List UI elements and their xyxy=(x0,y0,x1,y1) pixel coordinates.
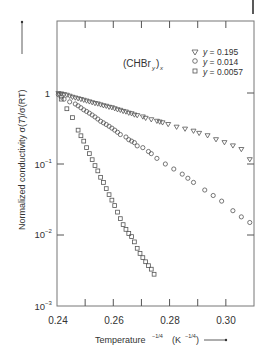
series-2 xyxy=(59,97,156,276)
data-point xyxy=(99,175,103,179)
data-point xyxy=(149,118,154,122)
data-point xyxy=(180,172,184,176)
data-point xyxy=(90,158,94,162)
data-point xyxy=(231,209,235,213)
data-point xyxy=(76,128,80,132)
data-point xyxy=(118,217,122,221)
data-point xyxy=(214,138,219,142)
data-point xyxy=(113,204,117,208)
annotation-sub-x: x xyxy=(159,65,164,71)
data-point xyxy=(93,164,97,168)
data-point xyxy=(166,123,171,127)
data-point xyxy=(141,146,145,150)
data-point xyxy=(121,223,125,227)
data-point xyxy=(144,260,148,264)
data-point xyxy=(146,149,150,153)
data-point xyxy=(247,158,252,162)
legend-marker-square-icon xyxy=(193,69,197,73)
data-point xyxy=(68,100,72,104)
x-label-sup: −1/4 xyxy=(152,333,163,339)
data-point xyxy=(191,129,196,133)
data-point xyxy=(96,169,100,173)
data-point xyxy=(183,127,188,131)
data-point xyxy=(82,139,86,143)
series-1 xyxy=(56,92,252,224)
y-tick-1e-3: 10 xyxy=(34,301,45,312)
data-point xyxy=(132,240,136,244)
legend: y = 0.195 y = 0.014 y = 0.0057 xyxy=(192,47,243,77)
y-arrow-head xyxy=(21,21,23,23)
data-point xyxy=(155,156,159,160)
y-tick-1e-3-exp: −3 xyxy=(45,300,53,306)
x-label-main: Temperature xyxy=(95,335,146,345)
data-point xyxy=(141,256,145,260)
legend-label-1: y = 0.014 xyxy=(202,57,238,67)
data-point xyxy=(239,215,243,219)
data-point xyxy=(239,148,244,152)
data-point xyxy=(107,193,111,197)
data-point xyxy=(87,152,91,156)
conductivity-chart: 1 10 −1 10 −2 10 −3 0.24 0.26 0.28 0.30 … xyxy=(0,0,264,361)
x-tick-labels: 0.24 0.26 0.28 0.30 xyxy=(48,315,236,326)
data-point xyxy=(62,97,66,101)
x-axis-label: Temperature −1/4 (K −1/4 ) xyxy=(95,333,227,345)
data-point xyxy=(149,152,153,156)
x-arrow-head xyxy=(225,339,227,341)
data-point xyxy=(115,130,119,134)
annotation-close: ) xyxy=(156,58,159,69)
data-point xyxy=(186,176,190,180)
data-point xyxy=(197,131,202,135)
x-tick-0.30: 0.30 xyxy=(216,315,236,326)
x-label-unit-close: ) xyxy=(196,335,199,345)
data-point xyxy=(71,116,75,120)
compound-annotation: (CHBr y ) x xyxy=(123,58,164,71)
data-point xyxy=(163,162,167,166)
data-point xyxy=(143,116,148,120)
data-point xyxy=(174,125,179,129)
data-point xyxy=(248,220,252,224)
y-label-suffix: )/σ(RT) xyxy=(17,90,27,119)
legend-label-0: y = 0.195 xyxy=(202,47,238,57)
data-point xyxy=(85,146,89,150)
data-point xyxy=(138,252,142,256)
data-point xyxy=(172,167,176,171)
legend-marker-triangle-icon xyxy=(192,50,198,55)
annotation-main: (CHBr xyxy=(123,58,151,69)
data-point xyxy=(230,144,235,148)
y-tick-1e-1-exp: −1 xyxy=(45,158,53,164)
data-point xyxy=(135,144,139,148)
y-tick-labels: 1 10 −1 10 −2 10 −3 xyxy=(34,88,52,312)
y-axis-label: Normalized conductivity σ(T)/σ(RT) xyxy=(17,21,27,230)
data-point xyxy=(222,141,227,145)
series-0 xyxy=(56,92,252,162)
y-tick-1: 1 xyxy=(45,88,50,99)
x-label-unit-sup: −1/4 xyxy=(185,333,196,339)
y-tick-1e-1: 10 xyxy=(34,159,45,170)
data-point xyxy=(220,199,224,203)
data-point xyxy=(102,181,106,185)
y-tick-1e-2-exp: −2 xyxy=(45,228,53,234)
data-point xyxy=(203,188,207,192)
data-point xyxy=(135,246,139,250)
data-point xyxy=(205,134,210,138)
legend-marker-circle-icon xyxy=(193,59,198,64)
y-label-prefix: Normalized conductivity σ( xyxy=(17,124,27,230)
data-point xyxy=(152,272,156,276)
legend-label-2: y = 0.0057 xyxy=(202,67,243,77)
x-tick-0.24: 0.24 xyxy=(48,315,68,326)
data-point xyxy=(191,180,195,184)
x-tick-0.26: 0.26 xyxy=(104,315,124,326)
data-point xyxy=(110,198,114,202)
data-point xyxy=(118,132,122,136)
data-point xyxy=(104,187,108,191)
x-tick-0.28: 0.28 xyxy=(160,315,180,326)
data-point xyxy=(65,107,69,111)
data-point xyxy=(211,193,215,197)
data-point xyxy=(79,134,83,138)
y-tick-1e-2: 10 xyxy=(34,229,45,240)
x-label-unit: (K xyxy=(172,335,181,345)
data-points xyxy=(56,92,252,277)
data-point xyxy=(116,210,120,214)
y-label-text: Normalized conductivity σ(T)/σ(RT) xyxy=(17,90,27,230)
data-point xyxy=(124,227,128,231)
